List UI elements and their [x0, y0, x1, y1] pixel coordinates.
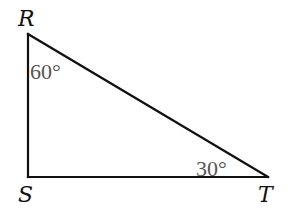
vertex-label-s: S [18, 182, 33, 207]
vertex-label-t: T [258, 182, 275, 207]
angle-label-t: 30° [196, 156, 227, 181]
angle-label-r: 60° [30, 59, 61, 84]
triangle-diagram: R S T 60° 30° [0, 0, 291, 213]
triangle-sides [28, 34, 268, 177]
vertex-label-r: R [17, 6, 35, 31]
side-rt [28, 34, 268, 177]
